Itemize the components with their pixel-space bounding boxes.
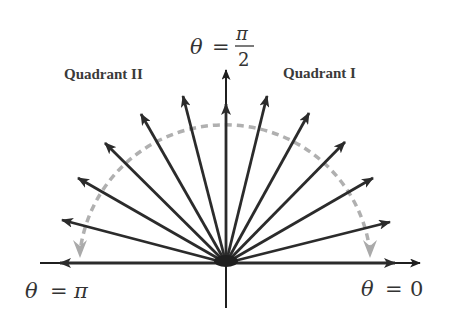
arrow-120 (141, 114, 226, 263)
theta-symbol: θ (361, 277, 374, 301)
fraction-numerator: π (235, 23, 249, 44)
arrow-105 (183, 96, 226, 263)
polar-angle-diagram: Quadrant II Quadrant I θ = π 2 θ = π θ =… (0, 0, 456, 327)
pi-symbol: π (73, 279, 89, 303)
fraction-denominator: 2 (238, 49, 249, 70)
theta-pi-label: θ = π (25, 279, 89, 303)
equals-sign: = (50, 279, 68, 303)
arrow-75 (226, 96, 267, 263)
origin-point (214, 255, 238, 267)
theta-symbol: θ (25, 279, 38, 303)
arc-arrowhead-right-icon (363, 240, 377, 258)
equals-sign: = (385, 277, 403, 301)
arrow-45 (226, 142, 345, 263)
theta-zero-label: θ = 0 (361, 277, 423, 301)
theta-symbol: θ (190, 35, 203, 59)
theta-pi-over-2-label: θ = π 2 (190, 23, 254, 70)
equals-sign: = (212, 35, 230, 59)
quadrant-2-label: Quadrant II (64, 66, 143, 82)
zero-value: 0 (410, 277, 423, 301)
arrow-165 (62, 220, 226, 263)
quadrant-1-label: Quadrant I (283, 65, 356, 81)
